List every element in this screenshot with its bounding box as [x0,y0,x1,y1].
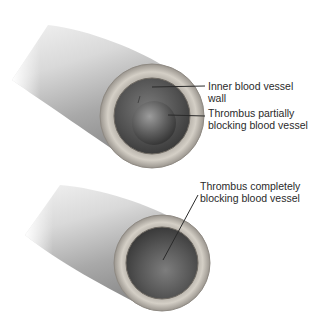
vessel-complete-blockage [25,185,210,311]
thrombus-diagram: Inner blood vessel wall Thrombus partial… [0,0,316,324]
label-thrombus-partial: Thrombus partially blocking blood vessel [208,107,308,131]
vessel-partial-blockage [12,25,204,168]
thrombus-partial [132,101,176,145]
label-thrombus-complete: Thrombus completely blocking blood vesse… [200,180,300,204]
thrombus-complete [126,227,198,299]
vessel-illustrations [0,0,316,324]
label-inner-vessel-wall: Inner blood vessel wall [208,80,293,104]
